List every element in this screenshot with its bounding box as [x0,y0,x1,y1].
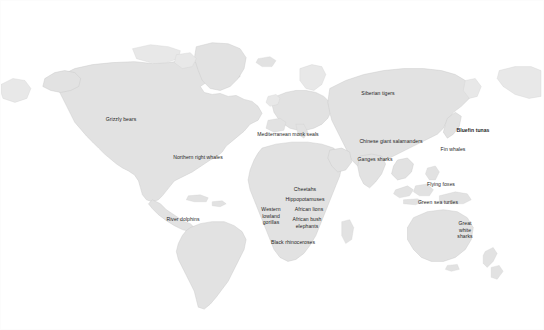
species-label-bluefin-tunas: Bluefin tunas [456,127,489,134]
species-label-mediterranean-monk-seals: Mediterranean monk seals [257,131,318,138]
species-label-green-sea-turtles: Green sea turtles [418,199,458,206]
species-label-hippopotamuses: Hippopotamuses [285,196,324,203]
species-label-african-lions: African lions [295,206,324,213]
species-label-chinese-giant-salamanders: Chinese giant salamanders [359,138,422,145]
species-label-ganges-sharks: Ganges sharks [357,156,392,163]
species-label-river-dolphins: River dolphins [166,216,199,223]
species-label-great-white-sharks: Great white sharks [457,220,472,240]
species-label-grizzly-bears: Grizzly bears [106,116,137,123]
species-label-black-rhinoceroses: Black rhinoceroses [271,239,315,246]
species-label-fin-whales: Fin whales [441,146,466,153]
world-species-map: Grizzly bearsNorthern right whalesRiver … [0,0,544,330]
species-label-western-lowland-gorillas: Western lowland gorillas [261,206,280,226]
species-label-siberian-tigers: Siberian tigers [361,90,394,97]
species-label-layer: Grizzly bearsNorthern right whalesRiver … [1,1,543,329]
species-label-african-bush-elephants: African bush elephants [292,216,321,229]
species-label-flying-foxes: Flying foxes [427,181,455,188]
species-label-northern-right-whales: Northern right whales [173,154,223,161]
species-label-cheetahs: Cheetahs [294,186,316,193]
